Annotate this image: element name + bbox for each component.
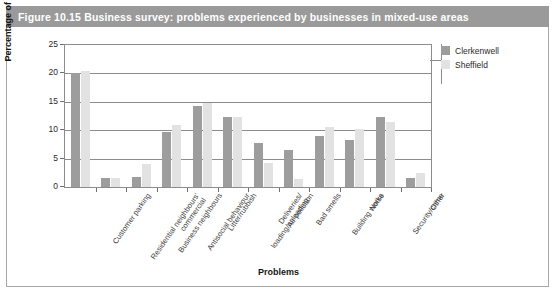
x-tick-mark (126, 188, 127, 192)
legend-label: Clerkenwell (455, 46, 499, 56)
bar (81, 71, 90, 187)
y-tick-mark (60, 186, 64, 187)
x-tick-mark (96, 188, 97, 192)
bar (132, 177, 141, 187)
plot-area (64, 44, 432, 188)
x-tick-mark (401, 188, 402, 192)
bar (345, 140, 354, 187)
bar (203, 103, 212, 187)
bar (355, 129, 364, 187)
x-tick-mark (370, 188, 371, 192)
bar (71, 73, 80, 187)
bar (111, 178, 120, 187)
bar (101, 178, 110, 187)
bar-group (406, 45, 425, 187)
bar-group (162, 45, 181, 187)
legend-swatch (441, 46, 450, 55)
bar (142, 164, 151, 187)
bar (264, 163, 273, 187)
figure-caption-text: Figure 10.15 Business survey: problems e… (6, 11, 469, 23)
chart-panel: Percentage of responses 0510152025 Custo… (6, 27, 549, 287)
x-tick-label: Bad smells (315, 192, 343, 227)
bar-group (101, 45, 120, 187)
figure-container: Figure 10.15 Business survey: problems e… (0, 0, 555, 293)
bar (193, 106, 202, 187)
legend-label: Sheffield (455, 60, 488, 70)
y-tick-mark (60, 129, 64, 130)
legend-swatch (441, 60, 450, 69)
x-tick-mark (248, 188, 249, 192)
y-tick-label: 10 (38, 124, 58, 134)
y-tick-mark (60, 158, 64, 159)
bar (284, 150, 293, 187)
x-tick-mark (431, 188, 432, 192)
y-tick-label: 20 (38, 67, 58, 77)
chart-legend: ClerkenwellSheffield (441, 44, 541, 84)
bar-group (345, 45, 364, 187)
figure-caption-bar: Figure 10.15 Business survey: problems e… (6, 6, 549, 27)
x-tick-label: Other (430, 192, 448, 212)
bar (294, 179, 303, 187)
bar-group (376, 45, 395, 187)
x-tick-mark (279, 188, 280, 192)
x-tick-mark (340, 188, 341, 192)
bar-group (254, 45, 273, 187)
bar (162, 132, 171, 187)
y-tick-mark (60, 44, 64, 45)
x-tick-mark (157, 188, 158, 192)
bar (406, 178, 415, 187)
y-tick-label: 5 (38, 153, 58, 163)
y-tick-label: 25 (38, 39, 58, 49)
bar (376, 117, 385, 187)
bar-group (223, 45, 242, 187)
y-tick-label: 0 (38, 181, 58, 191)
bar-group (132, 45, 151, 187)
x-tick-label: Customer parking (112, 192, 153, 246)
bar (254, 143, 263, 187)
legend-item: Sheffield (441, 58, 541, 71)
bar-group (315, 45, 334, 187)
bar-group (71, 45, 90, 187)
y-tick-label: 15 (38, 96, 58, 106)
x-axis-title: Problems (7, 267, 550, 277)
x-tick-mark (187, 188, 188, 192)
bar (315, 136, 324, 187)
legend-item: Clerkenwell (441, 44, 541, 57)
y-tick-mark (60, 72, 64, 73)
bar (325, 127, 334, 187)
bar-group (284, 45, 303, 187)
bar (416, 173, 425, 187)
bar-group (193, 45, 212, 187)
bar (233, 117, 242, 187)
x-tick-label: Noise (369, 192, 387, 213)
bar (386, 122, 395, 187)
bar (223, 117, 232, 187)
bar (172, 125, 181, 187)
y-axis-title: Percentage of responses (3, 0, 13, 83)
y-tick-mark (60, 101, 64, 102)
